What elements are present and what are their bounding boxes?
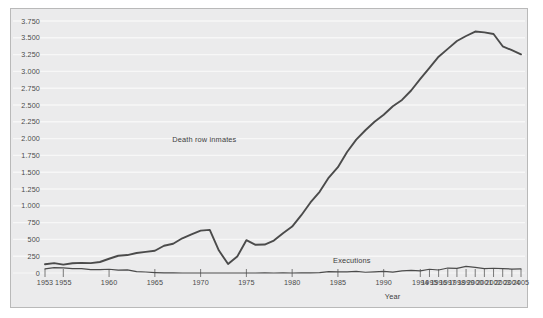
y-tick-label: 500 [11, 235, 40, 244]
y-tick-label: 250 [11, 252, 40, 261]
death-penalty-line-chart: 02505007501.0001.2501.5001.7502.0002.250… [0, 0, 543, 318]
series-line-executions [45, 266, 521, 273]
x-axis-title: Year [385, 292, 401, 301]
y-tick-label: 1.000 [11, 201, 40, 210]
y-tick-label: 2.000 [11, 134, 40, 143]
y-tick-label: 1.500 [11, 168, 40, 177]
x-tick-label: 1980 [278, 278, 306, 287]
y-tick-label: 2.250 [11, 117, 40, 126]
x-tick-label: 1985 [324, 278, 352, 287]
annotation-executions: Executions [333, 256, 371, 265]
x-tick-label: 1955 [49, 278, 77, 287]
x-tick-label: 2005 [507, 278, 535, 287]
chart-canvas [11, 9, 527, 307]
chart-plot-frame: 02505007501.0001.2501.5001.7502.0002.250… [10, 8, 528, 308]
y-tick-label: 750 [11, 218, 40, 227]
x-tick-label: 1975 [232, 278, 260, 287]
x-tick-label: 1965 [141, 278, 169, 287]
y-tick-label: 3.500 [11, 33, 40, 42]
gridline-group [13, 21, 525, 273]
y-tick-label: 0 [11, 269, 40, 278]
annotation-death-row-inmates: Death row inmates [172, 135, 236, 144]
y-tick-label: 2.500 [11, 101, 40, 110]
x-tick-label: 1990 [370, 278, 398, 287]
y-tick-label: 1.750 [11, 151, 40, 160]
y-tick-label: 3.250 [11, 50, 40, 59]
x-tick-label: 1970 [187, 278, 215, 287]
series-path-group [45, 32, 521, 273]
series-line-death-row-inmates [45, 32, 521, 265]
y-tick-label: 3.000 [11, 67, 40, 76]
x-tick-label: 1960 [95, 278, 123, 287]
y-tick-label: 1.250 [11, 185, 40, 194]
y-tick-label: 3.750 [11, 17, 40, 26]
y-tick-label: 2.750 [11, 84, 40, 93]
